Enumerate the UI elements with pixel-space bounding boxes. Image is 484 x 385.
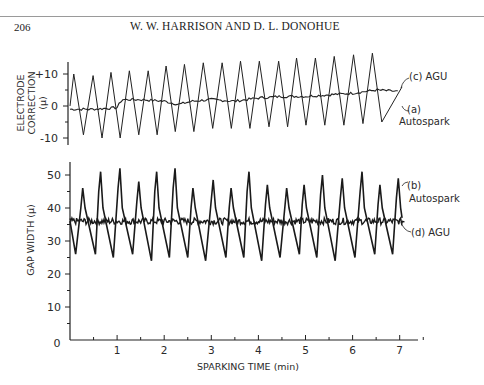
xtick-label: 3 [208, 344, 215, 356]
top-ytick-label: +10 [35, 68, 58, 81]
series-autospark-correction [70, 53, 402, 138]
figure: +100-10 ELECTRODE CORRECTION (µ) (c) AGU… [0, 0, 484, 385]
bottom-ytick-label: 40 [47, 202, 61, 215]
top-ylabel-1: ELECTRODE [15, 74, 26, 131]
origin-label: 0 [54, 337, 61, 350]
annotation-b: (b) [407, 180, 421, 191]
bottom-ytick-label: 50 [47, 169, 61, 182]
bottom-y-ticks: 5040302010 [47, 169, 70, 324]
bottom-ytick-label: 10 [47, 301, 61, 314]
bottom-ytick-label: 30 [47, 235, 61, 248]
series-agu-gap [70, 218, 404, 225]
xtick-label: 6 [349, 344, 356, 356]
annotation-a: (a) [407, 104, 421, 115]
bottom-ylabel: GAP WIDTH (µ) [25, 204, 36, 276]
top-plot: +100-10 ELECTRODE CORRECTION (µ) (c) AGU… [15, 53, 450, 145]
top-ytick-label: -10 [40, 132, 58, 145]
annotation-c-agu: (c) AGU [409, 71, 447, 82]
leader-c [401, 78, 409, 88]
bottom-ytick-label: 20 [47, 268, 61, 281]
bottom-plot: 5040302010 1234567 0 GAP WIDTH (µ) SPARK… [25, 162, 460, 372]
series-autospark-gap [70, 168, 402, 260]
top-ylabel-3: (µ) [37, 96, 48, 109]
xtick-label: 2 [161, 344, 168, 356]
x-ticks: 1234567 [94, 335, 424, 356]
x-axis-label: SPARKING TIME (min) [197, 361, 299, 372]
annotation-b-autospark: Autospark [409, 193, 460, 204]
top-ytick-label: 0 [51, 100, 58, 113]
leader-d [401, 222, 411, 232]
xtick-label: 1 [114, 344, 121, 356]
xtick-label: 7 [396, 344, 403, 356]
top-ylabel-2: CORRECTION [26, 71, 37, 134]
annotation-d-agu: (d) AGU [411, 227, 450, 238]
xtick-label: 4 [255, 344, 262, 356]
xtick-label: 5 [302, 344, 309, 356]
annotation-a-autospark: Autospark [399, 116, 450, 127]
